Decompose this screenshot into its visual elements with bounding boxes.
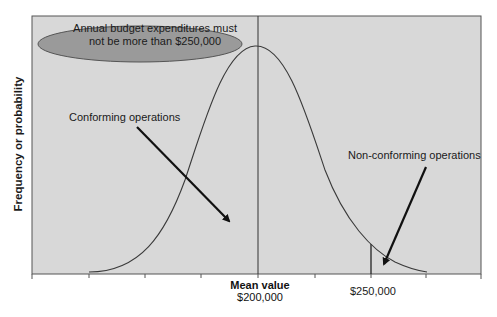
mean-title: Mean value xyxy=(230,279,289,291)
budget-limit-line1: Annual budget expenditures must xyxy=(40,22,270,35)
nonconforming-label: Non-conforming operations xyxy=(348,149,481,161)
limit-value-label: $250,000 xyxy=(350,285,396,297)
budget-limit-text: Annual budget expenditures must not be m… xyxy=(40,22,270,48)
budget-limit-line2: not be more than $250,000 xyxy=(40,35,270,48)
mean-value-label: Mean value $200,000 xyxy=(215,279,305,303)
mean-value: $200,000 xyxy=(215,291,305,303)
conforming-label: Conforming operations xyxy=(69,111,180,123)
y-axis-label: Frequency or probability xyxy=(12,64,24,224)
